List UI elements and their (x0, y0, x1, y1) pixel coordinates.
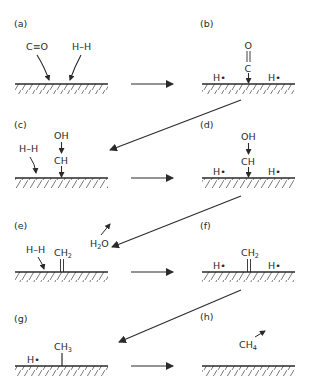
h-adatom: H• (213, 166, 226, 177)
h-adatom: H• (268, 72, 281, 83)
methane-molecule: CH4 (239, 339, 257, 352)
panel-label-f: (f) (200, 220, 211, 231)
surface-g (15, 366, 108, 376)
panel-label-g: (g) (14, 313, 27, 324)
panel-label-h: (h) (200, 311, 213, 322)
h2-molecule: H–H (19, 143, 38, 154)
h-adatom: H• (27, 354, 40, 365)
ch3-group: CH3 (54, 341, 72, 354)
carbon-atom: C (245, 63, 252, 74)
reaction-diagram: (a) C≡O H–H (b) O C H• H• (c) H–H OH CH … (0, 0, 309, 390)
panel-label-e: (e) (14, 220, 27, 231)
ch-group: CH (54, 155, 68, 166)
surface-h (202, 366, 295, 376)
adsorption-arrow-h2 (30, 157, 36, 173)
desorption-arrow-h2o (101, 224, 110, 235)
ch2-group: CH2 (241, 247, 259, 260)
adsorption-arrow-h2 (70, 55, 81, 80)
oxygen-atom: O (245, 40, 252, 51)
h2-molecule: H–H (26, 244, 45, 255)
h-adatom: H• (268, 260, 281, 271)
surface-e (15, 272, 108, 282)
h2-molecule: H–H (72, 41, 91, 52)
adsorption-arrow-co (37, 55, 49, 80)
surface-f (202, 272, 295, 282)
co-molecule: C≡O (26, 41, 48, 52)
surface-d (202, 178, 295, 188)
h-adatom: H• (213, 72, 226, 83)
panel-label-b: (b) (200, 18, 213, 29)
arrow-d-to-e (112, 196, 241, 247)
arrow-f-to-g (119, 290, 241, 342)
arrow-b-to-c (110, 100, 241, 150)
surface-a (15, 84, 108, 94)
panel-label-a: (a) (14, 18, 27, 29)
ch-group: CH (241, 156, 255, 167)
h-adatom: H• (213, 260, 226, 271)
panel-label-c: (c) (14, 119, 27, 130)
panel-label-d: (d) (200, 119, 213, 130)
h-adatom: H• (268, 166, 281, 177)
oh-group: OH (241, 131, 256, 142)
surface-c (15, 178, 108, 188)
adsorption-arrow-h2 (38, 257, 44, 269)
water-molecule: H2O (90, 238, 109, 251)
oh-group: OH (54, 130, 69, 141)
ch2-group: CH2 (54, 247, 72, 260)
desorption-arrow-ch4 (255, 331, 265, 337)
surface-b (202, 84, 295, 94)
